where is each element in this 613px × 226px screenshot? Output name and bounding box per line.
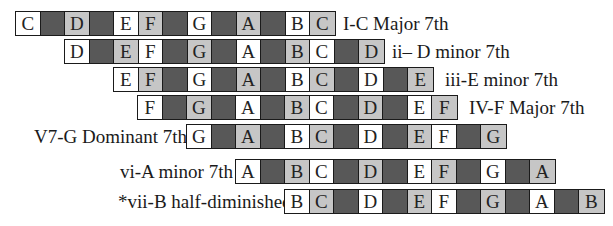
key-cell: G [481,160,506,183]
black-key-cell [506,160,531,183]
key-cell: A [530,190,555,213]
chord-row-iv-f-major7: F G A B C D E F [137,95,458,120]
key-cell: A [236,160,261,183]
key-cell: C [310,96,335,119]
key-cell: A [236,125,261,148]
key-cell: D [359,190,384,213]
black-key-cell [457,190,482,213]
key-cell: E [114,68,139,91]
key-cell: A [237,12,262,35]
key-cell: F [139,40,164,63]
chord-row-iii-e-minor7: E F G A B C D E [113,67,434,92]
chord-label: *vii-B half-diminished [118,189,292,214]
key-cell: D [359,125,384,148]
key-cell: B [285,125,310,148]
black-key-cell [212,68,237,91]
key-cell: D [359,96,384,119]
chord-row-vii-b-half-diminished: B C D E F G A B [284,189,605,214]
key-cell: D [65,12,90,35]
key-cell: D [65,40,90,63]
key-cell: F [138,96,163,119]
key-cell: C [310,160,335,183]
black-key-cell [335,40,360,63]
black-key-cell [383,125,408,148]
black-key-cell [163,40,188,63]
key-cell: F [139,68,164,91]
key-cell: G [187,96,212,119]
key-cell: G [188,12,213,35]
black-key-cell [163,68,188,91]
keyboard-bar: C D E F G A B C [15,11,336,36]
key-cell: C [16,12,41,35]
chord-row-v7-g-dominant7: G A B C D E F G [186,124,507,149]
key-cell: A [530,160,555,183]
key-cell: B [285,160,310,183]
key-cell: F [432,160,457,183]
key-cell: F [432,190,457,213]
black-key-cell [383,160,408,183]
key-cell: C [310,68,335,91]
black-key-cell [506,190,531,213]
key-cell: B [285,190,310,213]
keyboard-bar: D E F G A B C D [64,39,385,64]
key-cell: C [310,40,335,63]
black-key-cell [261,125,286,148]
chord-row-vi-a-minor7: A B C D E F G A [235,159,556,184]
key-cell: G [188,40,213,63]
black-key-cell [90,12,115,35]
key-cell: G [188,68,213,91]
chord-label: I-C Major 7th [343,11,449,36]
black-key-cell [261,40,286,63]
black-key-cell [212,12,237,35]
black-key-cell [163,12,188,35]
chord-label: vi-A minor 7th [120,159,233,184]
key-cell: G [481,125,506,148]
black-key-cell [383,96,408,119]
black-key-cell [334,160,359,183]
key-cell: F [432,96,457,119]
chord-label: iii-E minor 7th [445,67,558,92]
chord-row-ii-d-minor7: D E F G A B C D [64,39,385,64]
key-cell: E [114,40,139,63]
keyboard-bar: B C D E F G A B [284,189,605,214]
key-cell: C [310,125,335,148]
black-key-cell [383,190,408,213]
black-key-cell [334,96,359,119]
black-key-cell [261,12,286,35]
black-key-cell [212,96,237,119]
key-cell: B [286,12,311,35]
black-key-cell [163,96,188,119]
key-cell: C [310,190,335,213]
key-cell: E [408,125,433,148]
black-key-cell [212,40,237,63]
keyboard-bar: G A B C D E F G [186,124,507,149]
chord-row-i-c-major7: C D E F G A B C [15,11,336,36]
key-cell: E [408,68,433,91]
key-cell: D [359,68,384,91]
key-cell: E [408,160,433,183]
key-cell: G [481,190,506,213]
key-cell: C [310,12,335,35]
key-cell: E [408,190,433,213]
keyboard-bar: F G A B C D E F [137,95,458,120]
black-key-cell [335,68,360,91]
key-cell: B [285,96,310,119]
key-cell: B [286,40,311,63]
black-key-cell [555,190,580,213]
key-cell: G [187,125,212,148]
key-cell: D [359,40,384,63]
chord-label: ii– D minor 7th [392,39,510,64]
key-cell: B [579,190,604,213]
black-key-cell [41,12,66,35]
key-cell: A [237,40,262,63]
key-cell: A [236,96,261,119]
black-key-cell [261,96,286,119]
black-key-cell [457,125,482,148]
key-cell: E [408,96,433,119]
black-key-cell [457,160,482,183]
black-key-cell [261,160,286,183]
key-cell: A [237,68,262,91]
keyboard-bar: A B C D E F G A [235,159,556,184]
key-cell: E [114,12,139,35]
black-key-cell [261,68,286,91]
